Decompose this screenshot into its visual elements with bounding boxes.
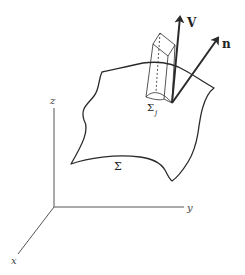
patch-label-main: Σ [147,102,154,113]
axes: z y x [11,95,193,266]
velocity-vector [172,17,180,103]
surface-label: Σ [114,160,122,173]
diagram-canvas: z y x Σ Σ j V n [0,0,245,275]
z-axis-label: z [49,95,56,106]
y-axis-label: y [186,202,193,213]
x-axis-label: x [11,255,17,266]
surface-sigma [71,62,214,181]
patch-label: Σ j [147,102,158,117]
normal-vector [172,38,218,103]
flux-tube [146,33,175,103]
normal-vector-label: n [222,37,231,51]
velocity-vector-label: V [186,16,197,30]
x-axis [18,207,54,254]
